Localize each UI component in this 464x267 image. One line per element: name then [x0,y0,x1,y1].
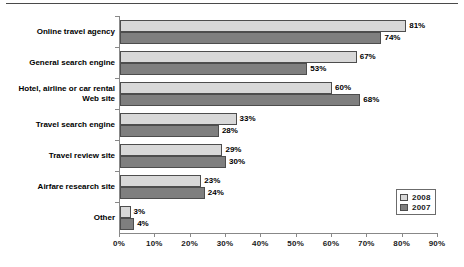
bar-value-label: 23% [204,176,220,185]
bar-value-label: 67% [360,52,376,61]
category-label: Other [0,213,115,223]
bar-value-label: 28% [222,126,238,135]
category-label: Airfare research site [0,182,115,192]
x-tick [402,233,403,237]
bar-2008 [120,82,332,94]
x-tick-label: 80% [382,239,422,248]
legend-entry-2008: 2008 [400,192,431,202]
x-tick [260,233,261,237]
x-axis-line [119,233,437,234]
bar-group: Hotel, airline or car rentalWeb site60%6… [0,78,464,109]
category-label: Travel review site [0,151,115,161]
x-tick [437,233,438,237]
bar-group: Online travel agency81%74% [0,16,464,47]
bar-group: Airfare research site23%24% [0,171,464,202]
category-label-line: Hotel, airline or car rental [0,84,115,94]
bar-chart: 0%10%20%30%40%50%60%70%80%90% Online tra… [0,0,464,267]
category-label: General search engine [0,58,115,68]
x-tick [225,233,226,237]
category-label-line: Web site [0,94,115,104]
x-tick [296,233,297,237]
bar-group: Other3%4% [0,202,464,233]
bar-value-label: 33% [240,114,256,123]
bar-group: General search engine67%53% [0,47,464,78]
bar-2008 [120,113,237,125]
legend-entry-2007: 2007 [400,202,431,212]
x-tick-label: 10% [134,239,174,248]
bar-group: Travel review site29%30% [0,140,464,171]
bar-2008 [120,20,406,32]
bar-value-label: 3% [134,207,146,216]
x-tick [154,233,155,237]
category-label-line: General search engine [0,58,115,68]
legend-swatch-icon-2007 [400,204,408,211]
x-tick-label: 30% [205,239,245,248]
x-tick-label: 70% [346,239,386,248]
bar-2008 [120,144,222,156]
bar-value-label: 60% [335,83,351,92]
bar-value-label: 68% [363,95,379,104]
bar-value-label: 24% [208,188,224,197]
bar-2008 [120,175,201,187]
legend-label-2007: 2007 [412,203,431,212]
bar-value-label: 53% [310,64,326,73]
x-tick-label: 20% [170,239,210,248]
category-label: Travel search engine [0,120,115,130]
legend-swatch-icon-2008 [400,194,408,201]
bar-2007 [120,32,381,44]
x-tick [190,233,191,237]
bar-value-label: 29% [225,145,241,154]
bar-2007 [120,94,360,106]
bar-value-label: 81% [409,21,425,30]
category-label-line: Airfare research site [0,182,115,192]
category-label: Hotel, airline or car rentalWeb site [0,84,115,104]
category-label-line: Online travel agency [0,27,115,37]
plot-area: 0%10%20%30%40%50%60%70%80%90% Online tra… [0,16,464,233]
x-tick-label: 90% [417,239,457,248]
x-tick-label: 50% [276,239,316,248]
bar-value-label: 4% [137,219,149,228]
category-label-line: Travel review site [0,151,115,161]
category-label-line: Other [0,213,115,223]
bar-2007 [120,218,134,230]
x-tick-label: 60% [311,239,351,248]
bar-2007 [120,125,219,137]
x-tick [331,233,332,237]
page-separator-rule [6,3,458,4]
x-tick-label: 0% [99,239,139,248]
bar-value-label: 74% [384,33,400,42]
bar-group: Travel search engine33%28% [0,109,464,140]
x-tick-label: 40% [240,239,280,248]
legend-label-2008: 2008 [412,193,431,202]
bar-value-label: 30% [229,157,245,166]
bar-2007 [120,187,205,199]
x-tick [366,233,367,237]
bar-2007 [120,63,307,75]
category-label: Online travel agency [0,27,115,37]
category-label-line: Travel search engine [0,120,115,130]
bar-2008 [120,206,131,218]
x-tick [119,233,120,237]
bar-2008 [120,51,357,63]
bar-2007 [120,156,226,168]
chart-legend: 2008 2007 [396,189,436,215]
